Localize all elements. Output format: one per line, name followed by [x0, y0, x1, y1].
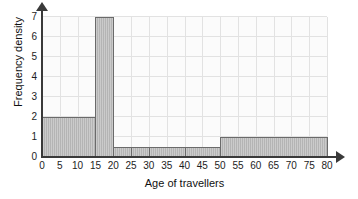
y-axis-title: Frequency density — [12, 0, 24, 132]
y-axis-line — [41, 10, 43, 158]
gridline-horizontal — [42, 76, 327, 77]
plot-area — [42, 17, 327, 157]
x-axis-line — [42, 156, 338, 158]
gridline-horizontal — [42, 56, 327, 57]
bar — [220, 137, 328, 157]
x-axis-title: Age of travellers — [42, 177, 327, 189]
gridline-horizontal — [42, 36, 327, 37]
y-tick-label: 7 — [23, 11, 37, 22]
y-tick-label: 1 — [23, 131, 37, 142]
histogram-chart: 05101520253035404550556065707580 0123456… — [0, 0, 358, 199]
bar — [42, 117, 96, 157]
y-tick-label: 6 — [23, 31, 37, 42]
x-tick-label: 80 — [316, 160, 338, 171]
y-tick-label: 5 — [23, 51, 37, 62]
y-tick-label: 0 — [23, 151, 37, 162]
y-axis-arrow-icon — [36, 2, 48, 11]
gridline-horizontal — [42, 16, 327, 17]
y-tick-label: 4 — [23, 71, 37, 82]
bar — [95, 17, 114, 157]
gridline-horizontal — [42, 96, 327, 97]
y-tick-label: 3 — [23, 91, 37, 102]
gridline-vertical — [327, 17, 328, 157]
y-tick-label: 2 — [23, 111, 37, 122]
